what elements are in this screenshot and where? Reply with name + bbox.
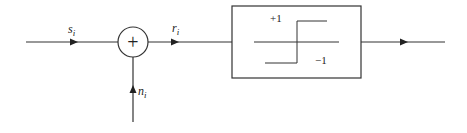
upper-level-label: +1 bbox=[270, 12, 282, 24]
summing-junction: + bbox=[118, 27, 148, 57]
noise-label: ni bbox=[138, 84, 147, 100]
sum-output-line bbox=[148, 39, 232, 46]
output-arrow-icon bbox=[400, 39, 408, 46]
sum-arrow-icon bbox=[171, 39, 179, 46]
noise-input-line bbox=[130, 57, 137, 122]
output-line bbox=[361, 39, 445, 46]
input-label: si bbox=[68, 22, 76, 38]
input-signal-line bbox=[26, 39, 118, 46]
block-diagram: si + ni ri +1 −1 bbox=[0, 0, 467, 133]
input-arrow-icon bbox=[70, 39, 78, 46]
plus-symbol: + bbox=[127, 31, 138, 53]
lower-level-label: −1 bbox=[315, 54, 327, 66]
noise-arrow-icon bbox=[130, 85, 137, 93]
hard-limiter-block: +1 −1 bbox=[232, 6, 361, 78]
sum-output-label: ri bbox=[172, 21, 180, 37]
